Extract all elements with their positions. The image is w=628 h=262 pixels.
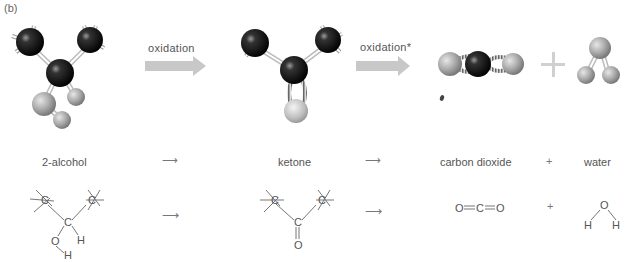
oxygen-atom bbox=[32, 92, 56, 116]
co2-ball-model bbox=[438, 51, 524, 102]
co2-structural-formula: O C O bbox=[455, 202, 505, 214]
svg-text:H: H bbox=[584, 219, 592, 231]
hydrogen-atom bbox=[67, 88, 85, 106]
atom-c: C bbox=[64, 216, 72, 228]
carbon-atom bbox=[46, 59, 74, 87]
atom-c: C bbox=[318, 194, 326, 206]
svg-text:C: C bbox=[476, 202, 484, 214]
hydrogen-atom bbox=[602, 66, 620, 84]
reaction-diagram: C C C O H H C C C O O C O O H H bbox=[0, 0, 628, 262]
reaction-arrow-icon: ⟶ bbox=[162, 208, 179, 222]
atom-c: C bbox=[271, 194, 279, 206]
oxidation-arrow-icon bbox=[145, 56, 206, 76]
plus-sign: + bbox=[547, 200, 553, 212]
atom-c: C bbox=[294, 216, 302, 228]
hydrogen-atom bbox=[53, 111, 71, 129]
svg-text:O: O bbox=[600, 199, 609, 211]
atom-o: O bbox=[51, 235, 60, 247]
ketone-ball-model bbox=[241, 26, 342, 123]
carbon-atom bbox=[16, 28, 44, 56]
atom-h: H bbox=[77, 234, 85, 246]
oxygen-atom bbox=[284, 99, 308, 123]
svg-text:O: O bbox=[496, 202, 505, 214]
reaction-arrow-icon: ⟶ bbox=[365, 204, 382, 218]
carbon-atom bbox=[465, 51, 491, 77]
plus-icon bbox=[541, 52, 565, 77]
arrow-label-oxidation: oxidation bbox=[148, 42, 195, 54]
svg-text:H: H bbox=[612, 219, 620, 231]
compound-name-ketone: ketone bbox=[278, 156, 311, 168]
carbon-atom bbox=[280, 56, 308, 84]
compound-name-co2: carbon dioxide bbox=[440, 156, 512, 168]
alcohol-ball-model bbox=[12, 26, 104, 129]
plus-sign: + bbox=[546, 155, 552, 167]
atom-o: O bbox=[294, 239, 303, 251]
reaction-arrow-icon: ⟶ bbox=[365, 154, 381, 167]
carbon-atom bbox=[315, 27, 341, 53]
oxygen-atom bbox=[502, 53, 524, 75]
atom-c: C bbox=[88, 194, 96, 206]
carbon-atom bbox=[241, 29, 269, 57]
water-ball-model bbox=[577, 37, 620, 84]
compound-name-water: water bbox=[584, 156, 611, 168]
reaction-arrow-icon: ⟶ bbox=[162, 154, 178, 167]
atom-h: H bbox=[64, 249, 72, 261]
panel-label: (b) bbox=[4, 2, 17, 14]
svg-text:O: O bbox=[455, 202, 464, 214]
arrow-label-oxidation-star: oxidation* bbox=[360, 41, 411, 53]
hydrogen-atom bbox=[577, 66, 595, 84]
compound-name-alcohol: 2-alcohol bbox=[42, 156, 87, 168]
atom-c: C bbox=[41, 194, 49, 206]
carbon-atom bbox=[77, 27, 103, 53]
oxygen-atom bbox=[438, 52, 462, 76]
oxygen-atom bbox=[589, 37, 611, 59]
water-structural-formula: O H H bbox=[584, 199, 620, 231]
oxidation-arrow-icon bbox=[356, 56, 410, 76]
